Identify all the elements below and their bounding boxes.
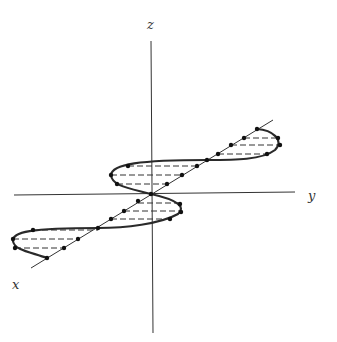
sample-dot	[265, 152, 269, 156]
sample-dot	[149, 192, 153, 196]
sample-dot	[276, 136, 280, 140]
sample-dot	[136, 199, 140, 203]
sample-dot	[229, 143, 233, 147]
z-axis-label: z	[146, 17, 154, 32]
sample-dot	[168, 217, 172, 221]
sample-dot	[109, 217, 113, 221]
sample-dot	[195, 164, 199, 168]
sample-dot	[115, 182, 119, 186]
sample-dot	[11, 237, 15, 241]
z-axis-line	[151, 41, 153, 333]
sample-dot	[45, 256, 49, 260]
sample-dot	[216, 152, 220, 156]
sample-dot	[13, 246, 17, 250]
sample-dot	[76, 237, 80, 241]
sample-dot	[255, 127, 259, 131]
sample-dot	[62, 246, 66, 250]
sample-dot	[242, 136, 246, 140]
sample-dot	[122, 209, 126, 213]
x-axis-label: x	[12, 277, 20, 292]
sample-dot	[126, 164, 130, 168]
sample-dot	[96, 226, 100, 230]
sample-dot	[178, 202, 182, 206]
wave-diagram: z y x	[0, 0, 337, 342]
sample-dot	[179, 210, 183, 214]
sample-dot	[109, 173, 113, 177]
axes-group	[14, 41, 295, 333]
y-axis-label: y	[307, 188, 316, 203]
sample-dot	[31, 228, 35, 232]
sample-dot	[180, 173, 184, 177]
sample-dot	[205, 158, 209, 162]
sample-dot	[165, 182, 169, 186]
sample-dot	[278, 143, 282, 147]
